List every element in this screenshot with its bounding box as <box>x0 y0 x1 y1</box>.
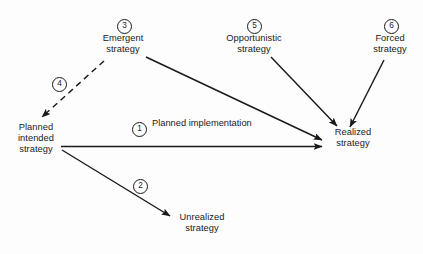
badge-1: 1 <box>132 122 147 137</box>
node-forced-strategy-line-2: strategy <box>364 44 416 55</box>
edge-2-unrealized <box>62 150 170 216</box>
node-forced-strategy: Forced strategy <box>364 33 416 55</box>
badge-4: 4 <box>52 77 67 92</box>
node-realized-strategy-line-1: Realized <box>329 127 377 138</box>
node-realized-strategy-line-2: strategy <box>329 138 377 149</box>
node-opportunistic-strategy-line-1: Opportunistic <box>219 33 289 44</box>
node-emergent-strategy-line-1: Emergent <box>95 33 151 44</box>
strategy-formation-diagram: Emergent strategy Opportunistic strategy… <box>0 0 423 254</box>
edge-label-planned-implementation: Planned implementation <box>152 118 224 129</box>
badge-6: 6 <box>384 19 399 34</box>
node-planned-intended-strategy-line-1: Planned <box>12 122 60 133</box>
badge-3: 3 <box>117 19 132 34</box>
edge-5-opportunistic-to-realized <box>271 57 337 126</box>
node-opportunistic-strategy-line-2: strategy <box>219 44 289 55</box>
node-forced-strategy-line-1: Forced <box>364 33 416 44</box>
node-unrealized-strategy-line-1: Unrealized <box>174 212 230 223</box>
node-planned-intended-strategy-line-2: intended <box>12 133 60 144</box>
node-realized-strategy: Realized strategy <box>329 127 377 149</box>
edge-4-emergent-to-planned <box>42 61 104 117</box>
node-emergent-strategy: Emergent strategy <box>95 33 151 55</box>
edge-6-forced-to-realized <box>350 60 384 127</box>
node-planned-intended-strategy: Planned intended strategy <box>12 122 60 156</box>
node-planned-intended-strategy-line-3: strategy <box>12 144 60 155</box>
edge-label-planned-implementation-line-1: Planned <box>152 118 186 128</box>
node-opportunistic-strategy: Opportunistic strategy <box>219 33 289 55</box>
node-unrealized-strategy-line-2: strategy <box>174 223 230 234</box>
badge-2: 2 <box>133 179 148 194</box>
edge-label-planned-implementation-line-2: implementation <box>189 118 252 128</box>
badge-5: 5 <box>247 19 262 34</box>
node-unrealized-strategy: Unrealized strategy <box>174 212 230 234</box>
node-emergent-strategy-line-2: strategy <box>95 44 151 55</box>
